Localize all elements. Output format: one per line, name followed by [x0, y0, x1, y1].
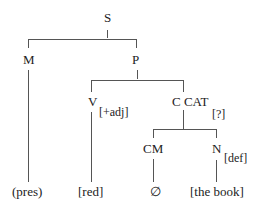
leaf-pres: (pres) [12, 185, 42, 199]
leaf-red: [red] [78, 185, 103, 199]
edge-v-red [91, 112, 92, 182]
edge-p-bar [91, 80, 184, 81]
feature-n: [def] [224, 152, 247, 165]
node-m: M [23, 53, 35, 67]
feature-v: [+adj] [99, 106, 128, 119]
node-s: S [104, 11, 111, 25]
edge-ccat-n [216, 129, 217, 138]
leaf-empty-set: ∅ [150, 185, 161, 199]
node-n: N [212, 142, 221, 156]
edge-p-stem [137, 70, 138, 79]
edge-cm-empty [153, 159, 154, 182]
edge-ccat-stem [183, 110, 184, 129]
edge-s-p [136, 39, 137, 48]
edge-p-ccat [183, 80, 184, 92]
edge-ccat-cm [153, 129, 154, 138]
edge-p-v [91, 80, 92, 92]
edge-s-bar [28, 39, 137, 40]
edge-n-thebook [216, 160, 217, 182]
edge-ccat-bar [153, 129, 217, 130]
edge-s-stem [107, 30, 108, 38]
node-v: V [88, 95, 97, 109]
feature-c-cat: [?] [212, 108, 225, 121]
edge-m-pres [28, 70, 29, 182]
node-c-cat: C CAT [172, 95, 208, 109]
syntax-tree: S M P V [+adj] C CAT [?] CM N [def] (pre… [0, 0, 262, 210]
node-cm: CM [143, 142, 163, 156]
node-p: P [132, 53, 139, 67]
edge-s-m [28, 39, 29, 48]
leaf-the-book: [the book] [190, 185, 244, 199]
